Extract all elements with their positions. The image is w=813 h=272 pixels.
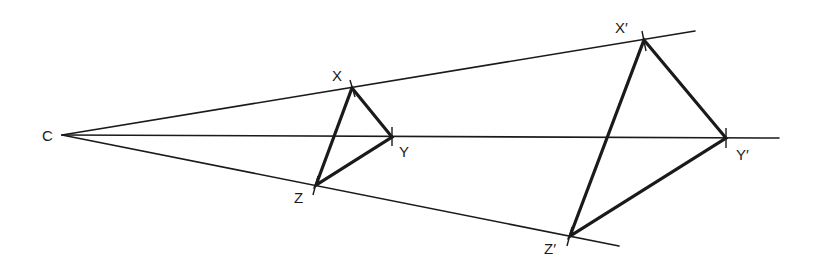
label-centre-c: C <box>42 127 53 144</box>
diagram-canvas: C X Y Z X′ Y′ Z′ <box>0 0 813 272</box>
label-vertex-x-prime: X′ <box>615 19 628 36</box>
label-vertex-y-prime: Y′ <box>736 146 749 163</box>
enlargement-diagram: C X Y Z X′ Y′ Z′ <box>0 0 813 272</box>
label-vertex-x: X <box>332 67 342 84</box>
construction-rays <box>62 31 779 246</box>
label-vertex-y: Y <box>399 143 409 160</box>
ray-through-y <box>62 135 779 138</box>
label-vertex-z-prime: Z′ <box>544 240 556 257</box>
label-vertex-z: Z <box>294 189 303 206</box>
ray-through-z <box>62 135 619 246</box>
